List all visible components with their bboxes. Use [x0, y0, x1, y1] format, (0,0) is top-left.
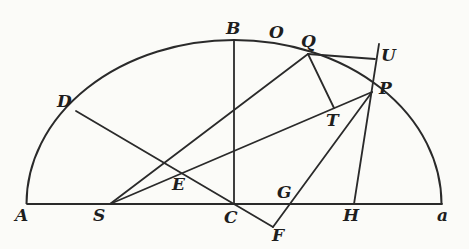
point-label-O: O: [269, 24, 284, 41]
segment-Q-U: [308, 54, 375, 59]
point-label-F: F: [272, 227, 284, 244]
segment-Q-T: [308, 54, 334, 108]
point-label-E: E: [172, 176, 185, 193]
point-label-D: D: [57, 93, 72, 110]
point-label-H: H: [343, 207, 359, 224]
point-label-A: A: [15, 207, 28, 224]
point-label-C: C: [224, 209, 238, 226]
point-label-U: U: [381, 47, 396, 64]
point-label-T: T: [326, 112, 339, 129]
diagram-canvas: ASCFGHaEDBOQUPT: [0, 0, 469, 249]
point-label-Q: Q: [301, 33, 316, 50]
point-label-B: B: [226, 20, 240, 37]
point-label-S: S: [93, 207, 105, 224]
point-label-G: G: [277, 184, 292, 201]
segment-Ut-H: [354, 44, 379, 204]
segment-S-P: [110, 92, 372, 204]
segment-D-F: [76, 111, 273, 227]
point-label-P: P: [379, 80, 392, 97]
point-label-a: a: [437, 207, 448, 224]
